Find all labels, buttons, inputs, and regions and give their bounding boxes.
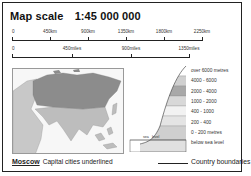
km-scale-bar: 0450km900km1350km1800km2250km: [12, 30, 202, 41]
elevation-band-label: 200 - 400: [191, 120, 211, 125]
scale-tick: [164, 37, 165, 41]
scale-ratio: 1:45 000 000: [75, 10, 141, 22]
scale-tick: [126, 37, 127, 41]
scale-tick: [131, 54, 132, 58]
capital-text: Capital cities underlined: [43, 158, 113, 165]
elevation-band-label: 0 - 200 metres: [191, 130, 222, 135]
scale-tick: [12, 37, 13, 41]
scale-tick-label: 1350miles: [179, 46, 200, 51]
elevation-band-label: 2000 - 4000: [191, 89, 217, 94]
capital-example: Moscow: [12, 158, 40, 165]
scale-tick-label: 1800km: [156, 29, 172, 34]
scale-tick: [72, 54, 73, 58]
miles-scale-bar: 0450miles900miles1350miles: [12, 47, 189, 58]
scale-tick-label: 450miles: [63, 46, 81, 51]
title-label: Map scale: [10, 10, 63, 22]
scale-tick-label: 450km: [43, 29, 57, 34]
elevation-band-label: 4000 - 6000: [191, 78, 217, 83]
scale-tick: [202, 37, 203, 41]
sea-label: sea: [143, 135, 149, 139]
elevation-legend-graphic: [128, 66, 188, 152]
locator-map: [12, 68, 124, 154]
scale-tick: [50, 37, 51, 41]
scale-tick: [88, 37, 89, 41]
scale-tick: [12, 54, 13, 58]
scale-tick-label: 2250km: [194, 29, 210, 34]
capital-legend: MoscowCapital cities underlined: [12, 158, 113, 165]
elevation-band-label: below sea level: [191, 140, 224, 145]
scale-tick-label: 900km: [81, 29, 95, 34]
boundary-line-symbol: [158, 163, 188, 164]
asia-locator-map-graphic: [13, 69, 124, 154]
scale-tick-label: 1350km: [118, 29, 134, 34]
elevation-band-label: 1000 - 2000: [191, 99, 217, 104]
level-label: level: [152, 135, 159, 139]
scale-tick-label: 0: [12, 29, 15, 34]
boundary-label: Country boundaries: [191, 158, 246, 165]
scale-tick-label: 900miles: [122, 46, 140, 51]
scale-tick-label: 0: [12, 46, 15, 51]
elevation-band-label: over 6000 metres: [191, 68, 228, 73]
map-scale-title: Map scale 1:45 000 000: [10, 10, 141, 22]
elevation-band-label: 400 - 1000: [191, 109, 214, 114]
scale-tick: [189, 54, 190, 58]
